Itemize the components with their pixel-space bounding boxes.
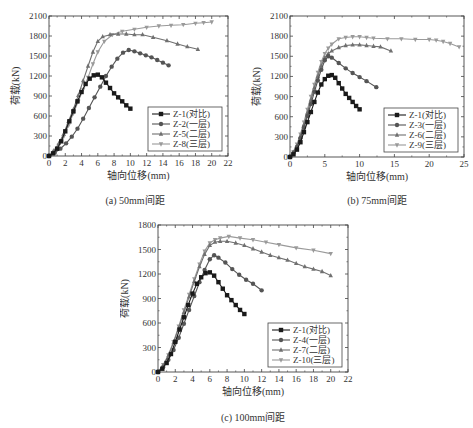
square-marker xyxy=(337,81,341,85)
y-tick-label: 1500 xyxy=(270,51,289,61)
square-marker xyxy=(128,106,132,110)
x-tick-label: 8 xyxy=(112,158,117,168)
legend-label: Z-6(二层) xyxy=(409,130,446,140)
square-marker xyxy=(203,271,207,275)
chart-a: 0246810121416182022030060090012001500180… xyxy=(0,0,240,190)
circle-marker xyxy=(115,56,119,60)
x-tick-label: 20 xyxy=(207,158,217,168)
chart-panel-b: 051015202503006009001200150018002100轴向位移… xyxy=(240,0,473,210)
square-marker xyxy=(291,152,295,156)
legend: Z-1(对比)Z-2(一层)Z-5(二层)Z-8(三层) xyxy=(148,107,222,151)
square-marker xyxy=(63,129,67,133)
circle-marker xyxy=(75,126,79,130)
circle-marker xyxy=(223,260,227,264)
square-marker xyxy=(305,120,309,124)
triangle-down-marker xyxy=(91,62,95,66)
triangle-up-marker xyxy=(91,49,95,53)
circle-marker xyxy=(374,85,378,89)
square-marker xyxy=(186,303,190,307)
y-axis-label: 荷载(kN) xyxy=(10,67,22,106)
triangle-down-marker xyxy=(457,45,461,49)
legend-label: Z-5(二层) xyxy=(173,129,210,139)
x-tick-label: 14 xyxy=(274,374,284,384)
square-marker xyxy=(55,146,59,150)
circle-marker xyxy=(316,78,320,82)
square-marker xyxy=(350,100,354,104)
circle-marker xyxy=(127,48,131,52)
x-tick-label: 6 xyxy=(96,158,101,168)
x-tick-label: 18 xyxy=(191,158,201,168)
square-marker xyxy=(87,76,91,80)
y-tick-label: 1200 xyxy=(29,71,48,81)
chart-panel-c: 0246810121416182022030060090012001500180… xyxy=(120,210,360,428)
circle-marker xyxy=(166,63,170,67)
square-marker xyxy=(124,103,128,107)
square-marker xyxy=(212,273,216,277)
caption-a: (a) 50mm间距 xyxy=(0,192,270,207)
legend-label: Z-1(对比) xyxy=(293,324,330,335)
square-marker xyxy=(199,275,203,279)
x-tick-label: 0 xyxy=(47,158,52,168)
legend: Z-1(对比)Z-4(一层)Z-7(二层)Z-10(三层) xyxy=(268,323,342,367)
circle-marker xyxy=(161,60,165,64)
circle-icon xyxy=(395,123,399,127)
legend-label: Z-9(三层) xyxy=(409,140,446,150)
y-tick-label: 2100 xyxy=(270,11,289,21)
circle-marker xyxy=(237,273,241,277)
triangle-up-marker xyxy=(81,78,85,82)
x-tick-label: 16 xyxy=(292,374,302,384)
square-marker xyxy=(295,147,299,151)
square-marker xyxy=(347,96,351,100)
square-marker xyxy=(216,280,220,284)
circle-icon xyxy=(159,122,163,126)
square-marker xyxy=(100,75,104,79)
x-tick-label: 18 xyxy=(309,374,319,384)
circle-marker xyxy=(155,58,159,62)
circle-marker xyxy=(98,84,102,88)
square-marker xyxy=(190,291,194,295)
circle-marker xyxy=(208,257,212,261)
x-tick-label: 12 xyxy=(257,374,266,384)
circle-marker xyxy=(319,68,323,72)
circle-marker xyxy=(259,288,263,292)
square-marker xyxy=(298,140,302,144)
square-marker xyxy=(51,151,55,155)
circle-marker xyxy=(132,49,136,53)
circle-marker xyxy=(337,61,341,65)
legend: Z-1(对比)Z-3(一层)Z-6(二层)Z-9(三层) xyxy=(384,108,458,152)
y-axis-label: 荷载(kN) xyxy=(120,279,131,318)
square-marker xyxy=(238,308,242,312)
y-tick-label: 300 xyxy=(34,131,48,141)
x-tick-label: 20 xyxy=(326,374,336,384)
x-tick-label: 2 xyxy=(63,158,68,168)
legend-label: Z-3(一层) xyxy=(409,120,446,130)
square-marker xyxy=(302,130,306,134)
triangle-down-marker xyxy=(329,252,333,256)
square-marker xyxy=(83,82,87,86)
legend-label: Z-4(一层) xyxy=(293,335,330,345)
y-axis-label: 荷载(kN) xyxy=(251,67,263,106)
circle-marker xyxy=(149,55,153,59)
y-tick-label: 2100 xyxy=(29,11,48,21)
circle-marker xyxy=(109,64,113,68)
x-tick-label: 4 xyxy=(79,158,84,168)
square-marker xyxy=(108,86,112,90)
square-marker xyxy=(169,352,173,356)
y-tick-label: 1500 xyxy=(29,51,48,61)
x-tick-label: 10 xyxy=(240,374,250,384)
square-marker xyxy=(319,82,323,86)
chart-b: 051015202503006009001200150018002100轴向位移… xyxy=(240,0,473,190)
square-marker xyxy=(340,86,344,90)
square-marker xyxy=(112,91,116,95)
y-tick-label: 600 xyxy=(34,111,48,121)
square-marker xyxy=(79,90,83,94)
y-tick-label: 0 xyxy=(152,367,157,377)
circle-marker xyxy=(212,253,216,257)
circle-marker xyxy=(350,71,354,75)
circle-marker xyxy=(70,134,74,138)
square-marker xyxy=(75,99,79,103)
x-tick-label: 12 xyxy=(142,158,151,168)
circle-marker xyxy=(64,141,68,145)
square-marker xyxy=(333,76,337,80)
caption-c: (c) 100mm间距 xyxy=(120,409,386,424)
